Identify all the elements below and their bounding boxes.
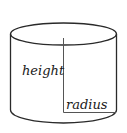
cylinder-diagram: height radius xyxy=(0,0,127,133)
height-label: height xyxy=(22,63,65,78)
radius-label: radius xyxy=(66,97,108,112)
